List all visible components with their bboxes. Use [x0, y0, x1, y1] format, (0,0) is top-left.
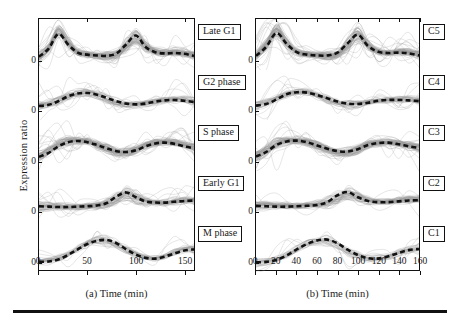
subpanel-c5: [256, 19, 419, 70]
y-tick-mark: [38, 111, 42, 112]
y-zero-tick-label: 0: [231, 105, 253, 115]
x-tick-mark: [255, 271, 256, 275]
subpanel-early-g1: [39, 171, 194, 222]
y-tick-mark: [255, 111, 259, 112]
cluster-label-c1: C1: [423, 226, 445, 242]
panel-a: (a) Time (min): [38, 18, 195, 289]
subpanel-c3: [256, 120, 419, 171]
x-tick-mark: [38, 271, 39, 275]
y-tick-mark: [38, 212, 42, 213]
x-tick-mark-top: [185, 18, 186, 22]
y-zero-tick-label: 0: [14, 206, 36, 216]
x-tick-mark: [136, 271, 137, 275]
y-zero-tick-label: 0: [14, 55, 36, 65]
x-tick-mark-top: [276, 18, 277, 22]
y-zero-tick-label: 0: [14, 105, 36, 115]
x-tick-mark-top: [38, 18, 39, 22]
x-tick-mark-top: [399, 18, 400, 22]
x-tick-mark: [379, 271, 380, 275]
x-tick-label: 160: [405, 256, 435, 266]
x-tick-mark: [358, 271, 359, 275]
x-tick-mark: [185, 271, 186, 275]
cluster-label-c5: C5: [423, 24, 445, 40]
panel-b-caption: (b) Time (min): [255, 288, 420, 299]
y-tick-mark: [255, 212, 259, 213]
x-tick-mark: [296, 271, 297, 275]
y-tick-mark: [38, 162, 42, 163]
panel-a-caption: (a) Time (min): [38, 288, 195, 299]
subpanel-s-phase: [39, 120, 194, 171]
x-tick-mark-top: [420, 18, 421, 22]
x-tick-label: 150: [170, 256, 200, 266]
x-tick-mark: [420, 271, 421, 275]
x-tick-mark: [276, 271, 277, 275]
x-tick-mark: [87, 271, 88, 275]
y-tick-mark: [255, 61, 259, 62]
x-tick-mark-top: [136, 18, 137, 22]
x-tick-mark-top: [317, 18, 318, 22]
expression-cluster-figure: Expression ratio (a) Time (min) (b) Time…: [0, 0, 460, 327]
x-tick-mark-top: [255, 18, 256, 22]
y-zero-tick-label: 0: [231, 206, 253, 216]
cluster-label-m-phase: M phase: [198, 226, 242, 242]
subpanel-g2-phase: [39, 70, 194, 121]
x-tick-label: 0: [23, 256, 53, 266]
y-zero-tick-label: 0: [231, 55, 253, 65]
subpanel-late-g1: [39, 19, 194, 70]
x-tick-mark-top: [358, 18, 359, 22]
x-tick-mark-top: [87, 18, 88, 22]
cluster-label-s-phase: S phase: [198, 125, 239, 141]
cluster-label-c4: C4: [423, 75, 445, 91]
x-tick-mark: [338, 271, 339, 275]
centroid-curve: [256, 33, 419, 56]
panel-b-plot-frame: [255, 18, 420, 271]
cluster-label-c2: C2: [423, 176, 445, 192]
cluster-label-g2-phase: G2 phase: [198, 75, 246, 91]
y-tick-mark: [255, 162, 259, 163]
cluster-label-early-g1: Early G1: [198, 176, 244, 192]
y-zero-tick-label: 0: [231, 156, 253, 166]
subpanel-c4: [256, 70, 419, 121]
panel-a-plot-frame: [38, 18, 195, 271]
bottom-rule: [13, 310, 447, 313]
subpanel-c2: [256, 171, 419, 222]
x-tick-mark-top: [379, 18, 380, 22]
x-tick-label: 50: [72, 256, 102, 266]
x-tick-mark-top: [296, 18, 297, 22]
x-tick-mark: [317, 271, 318, 275]
x-tick-mark-top: [338, 18, 339, 22]
panel-b: (b) Time (min): [255, 18, 420, 289]
x-tick-mark: [399, 271, 400, 275]
y-tick-mark: [38, 61, 42, 62]
y-zero-tick-label: 0: [14, 156, 36, 166]
cluster-label-late-g1: Late G1: [198, 24, 241, 40]
cluster-label-c3: C3: [423, 125, 445, 141]
x-tick-label: 100: [121, 256, 151, 266]
